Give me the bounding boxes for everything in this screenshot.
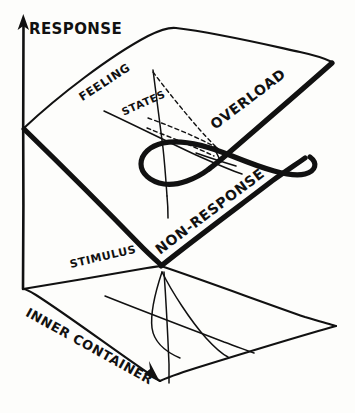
control-plane — [23, 266, 336, 383]
hidden-trajectory-line-1 — [153, 72, 218, 149]
hidden-trajectory-line-3 — [147, 128, 214, 156]
catastrophe-diagram: RESPONSE FEELING STATES OVERLOAD NON-RES… — [0, 0, 355, 413]
state-line-fold-tail — [167, 196, 168, 218]
base-vertical-drop-line — [164, 272, 169, 383]
bifurcation-line-c — [162, 272, 228, 357]
control-plane-front-right-edge — [160, 326, 336, 381]
control-plane-back-right-edge — [161, 266, 336, 326]
sheet-front-left-edge — [24, 129, 161, 265]
control-plane-back-left-edge — [23, 266, 161, 289]
response-axis — [18, 14, 29, 289]
sheet-top-right-edge — [176, 28, 332, 62]
response-axis-line — [23, 24, 24, 289]
bifurcation-line-a — [105, 296, 254, 353]
diagram-canvas — [0, 0, 355, 413]
axis-label-response: RESPONSE — [29, 20, 122, 38]
bifurcation-line-b — [152, 272, 180, 358]
